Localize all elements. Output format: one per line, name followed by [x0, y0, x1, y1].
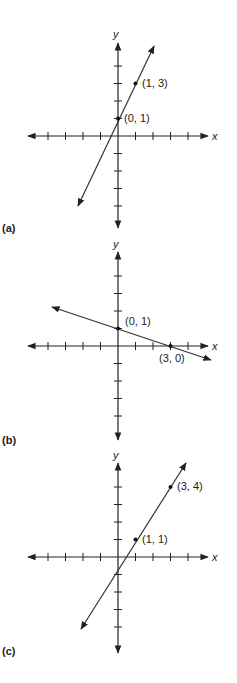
point-label: (1, 3)	[142, 77, 168, 89]
point-0-1	[116, 117, 120, 121]
point-1-1	[134, 538, 138, 542]
panel-label-b: (b)	[2, 434, 16, 446]
y-axis-label: y	[112, 28, 120, 40]
point-label: (3, 0)	[159, 352, 185, 364]
point-label: (3, 4)	[177, 480, 203, 492]
graphs-canvas: (0, 1) (1, 3) x y (a)	[0, 0, 237, 683]
point-label: (0, 1)	[125, 315, 151, 327]
panel-label-c: (c)	[2, 645, 16, 657]
point-0-1	[116, 327, 120, 331]
y-axis-label: y	[112, 449, 120, 461]
x-axis-label: x	[211, 130, 218, 142]
graph-a: (0, 1) (1, 3) x y (a)	[2, 28, 218, 234]
point-1-3	[134, 82, 138, 86]
y-axis-label: y	[112, 238, 120, 250]
graph-c: (1, 1) (3, 4) x y (c)	[2, 449, 218, 657]
x-axis-label: x	[211, 340, 218, 352]
point-3-4	[169, 485, 173, 489]
panel-label-a: (a)	[2, 222, 16, 234]
point-3-0	[169, 344, 173, 348]
point-label: (1, 1)	[142, 533, 168, 545]
point-label: (0, 1)	[124, 112, 150, 124]
x-axis-label: x	[211, 551, 218, 563]
graph-line	[78, 46, 154, 206]
graph-b: (0, 1) (3, 0) x y (b)	[2, 238, 218, 446]
